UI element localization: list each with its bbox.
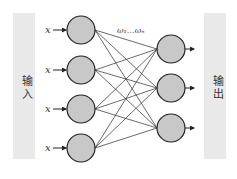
input-label-4: x (45, 142, 51, 153)
input-node-4 (67, 134, 95, 162)
output-nodes (157, 35, 185, 142)
input-label-3: x (45, 103, 51, 114)
output-node-1 (157, 35, 185, 63)
input-nodes (67, 16, 95, 162)
output-arrows (185, 49, 194, 128)
input-label-2: x (45, 64, 51, 75)
input-node-2 (67, 56, 95, 84)
network-diagram: x x x x ω₁…ωₙ (0, 0, 237, 179)
weights-label: ω₁…ωₙ (117, 26, 145, 35)
input-arrows (53, 30, 66, 148)
input-labels: x x x x (45, 24, 51, 153)
output-node-3 (157, 114, 185, 142)
input-node-1 (67, 16, 95, 44)
input-label-1: x (45, 24, 51, 35)
connections (95, 30, 157, 148)
input-node-3 (67, 95, 95, 123)
output-node-2 (157, 74, 185, 102)
